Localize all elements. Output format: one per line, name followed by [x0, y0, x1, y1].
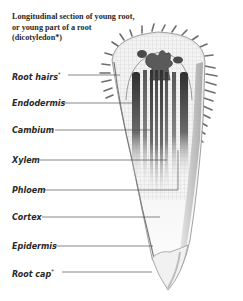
- label-root-hairs: Root hairs*: [12, 71, 61, 82]
- label-xylem: Xylem: [12, 156, 40, 165]
- label-root-cap: Root cap*: [12, 268, 54, 279]
- root-section-illustration: [0, 0, 243, 301]
- label-phloem: Phloem: [12, 186, 46, 195]
- label-cortex: Cortex: [12, 213, 42, 222]
- label-endodermis: Endodermis: [12, 99, 65, 108]
- label-epidermis: Epidermis: [12, 242, 57, 251]
- label-cambium: Cambium: [12, 126, 54, 135]
